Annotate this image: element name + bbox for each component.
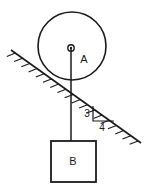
slope-run-label-4: 4 (99, 122, 105, 133)
hatch-mark (72, 100, 80, 103)
hatch-mark (50, 84, 58, 87)
hatch-mark (29, 69, 37, 72)
incline-hatching-group (7, 53, 138, 144)
pulley-label-a: A (80, 53, 88, 65)
pulley-axle-center-dot (70, 47, 72, 49)
hatch-mark (43, 79, 51, 82)
hatch-mark (94, 115, 102, 118)
hatch-mark (21, 63, 29, 66)
hatch-mark (130, 141, 138, 144)
pulley-circle-a (38, 12, 106, 80)
slope-ratio-triangle (93, 106, 114, 121)
hatch-mark (122, 136, 130, 139)
physics-diagram-figure: A B 3 4 (0, 0, 150, 187)
hatch-mark (36, 74, 44, 77)
diagram-canvas: A B 3 4 (0, 0, 150, 187)
slope-rise-label-3: 3 (84, 108, 90, 119)
inclined-surface-line (11, 50, 141, 143)
hatch-mark (115, 131, 123, 134)
hatch-mark (14, 58, 22, 61)
block-label-b: B (69, 155, 76, 167)
hatch-mark (7, 53, 15, 56)
hatch-mark (57, 89, 65, 92)
hatch-mark (65, 94, 73, 97)
hatch-mark (108, 125, 116, 128)
